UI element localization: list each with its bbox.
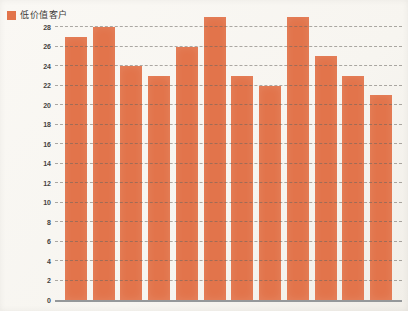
- bar: [120, 66, 142, 300]
- bar: [370, 95, 392, 300]
- scanned-bar-chart-figure: 低价值客户 0246810121416182022242628: [0, 0, 408, 311]
- gridline: [55, 163, 402, 164]
- gridline: [55, 182, 402, 183]
- bar: [231, 76, 253, 300]
- gridline: [55, 26, 402, 27]
- y-tick-label: 12: [31, 179, 51, 188]
- bar: [204, 17, 226, 300]
- y-tick-label: 14: [31, 159, 51, 168]
- bar: [315, 56, 337, 300]
- gridline: [55, 241, 402, 242]
- plot-area: [55, 0, 402, 302]
- y-tick-label: 26: [31, 42, 51, 51]
- gridline: [55, 280, 402, 281]
- bar: [259, 86, 281, 301]
- gridline: [55, 221, 402, 222]
- y-tick-label: 10: [31, 198, 51, 207]
- y-axis: 0246810121416182022242628: [0, 0, 53, 300]
- gridline: [55, 46, 402, 47]
- gridline: [55, 260, 402, 261]
- gridline: [55, 85, 402, 86]
- y-tick-label: 6: [31, 237, 51, 246]
- bar: [287, 17, 309, 300]
- gridline: [55, 202, 402, 203]
- bar: [148, 76, 170, 300]
- y-tick-label: 16: [31, 140, 51, 149]
- y-tick-label: 28: [31, 23, 51, 32]
- gridline: [55, 104, 402, 105]
- y-tick-label: 8: [31, 218, 51, 227]
- gridline: [55, 65, 402, 66]
- bar: [342, 76, 364, 300]
- y-tick-label: 20: [31, 101, 51, 110]
- gridline: [55, 143, 402, 144]
- gridline: [55, 124, 402, 125]
- y-tick-label: 18: [31, 120, 51, 129]
- y-tick-label: 22: [31, 81, 51, 90]
- y-tick-label: 2: [31, 276, 51, 285]
- y-tick-label: 4: [31, 257, 51, 266]
- y-tick-label: 24: [31, 62, 51, 71]
- y-tick-label: 0: [31, 296, 51, 305]
